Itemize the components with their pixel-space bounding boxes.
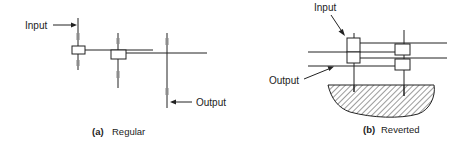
gear-box-right-top-b [395, 44, 410, 55]
gear-box-left-top-b [347, 38, 360, 52]
shaft-3-a [166, 33, 168, 108]
caption-a: Regular [112, 126, 145, 137]
gear-box-2-a [111, 50, 126, 59]
output-label-b: Output [269, 75, 299, 86]
gear-train-diagram: Input Output [0, 0, 471, 143]
ground-housing-b [328, 85, 434, 117]
caption-tag-a: (a) [92, 126, 104, 137]
caption-b: Reverted [381, 124, 420, 135]
gear-box-1-a [72, 46, 85, 54]
shaft-2-a [111, 33, 126, 88]
input-label-a: Input [25, 20, 47, 31]
gear-box-left-bottom-b [347, 52, 360, 63]
panel-regular: Input Output [25, 18, 226, 137]
gear-box-right-bottom-b [395, 59, 410, 70]
panel-reverted: Input Output (b) Reverted [269, 2, 447, 135]
output-arrow-b [304, 66, 334, 79]
caption-tag-b: (b) [363, 124, 375, 135]
input-arrow-a [53, 23, 77, 28]
input-label-b: Input [314, 2, 336, 13]
output-label-a: Output [196, 97, 226, 108]
output-arrow-a [170, 100, 192, 105]
input-arrow-b [331, 15, 345, 36]
